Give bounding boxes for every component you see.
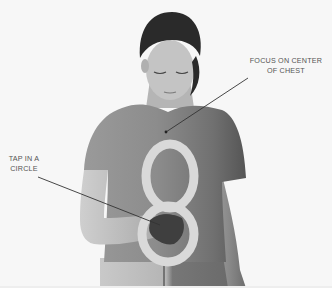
tap-annotation-line1: TAP IN A: [0, 154, 48, 164]
chest-annotation: FOCUS ON CENTER OF CHEST: [244, 56, 328, 76]
tap-annotation-line2: CIRCLE: [0, 164, 48, 174]
face: [146, 40, 194, 100]
chest-annotation-line2: OF CHEST: [244, 66, 328, 76]
tap-annotation: TAP IN A CIRCLE: [0, 154, 48, 174]
chest-pointer-dot: [165, 131, 168, 134]
chest-annotation-line1: FOCUS ON CENTER: [244, 56, 328, 66]
instruction-photo: [0, 0, 332, 288]
ear: [141, 59, 149, 73]
